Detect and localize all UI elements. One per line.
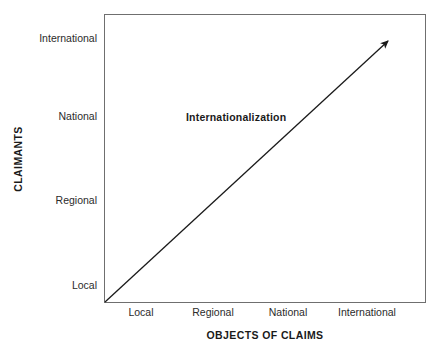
y-tick-regional: Regional: [56, 194, 97, 206]
y-tick-international: International: [39, 32, 97, 44]
internationalization-label: Internationalization: [186, 111, 286, 123]
y-axis-title: CLAIMANTS: [0, 14, 36, 303]
y-tick-local: Local: [72, 279, 97, 291]
x-axis-title: OBJECTS OF CLAIMS: [104, 329, 426, 341]
plot-area: [104, 14, 426, 303]
x-tick-regional: Regional: [192, 306, 233, 318]
y-tick-national: National: [58, 110, 97, 122]
x-tick-national: National: [269, 306, 308, 318]
x-tick-international: International: [338, 306, 396, 318]
x-tick-local: Local: [128, 306, 153, 318]
internationalization-diagram: CLAIMANTS International National Regiona…: [0, 0, 444, 357]
y-axis-title-label: CLAIMANTS: [12, 126, 24, 191]
